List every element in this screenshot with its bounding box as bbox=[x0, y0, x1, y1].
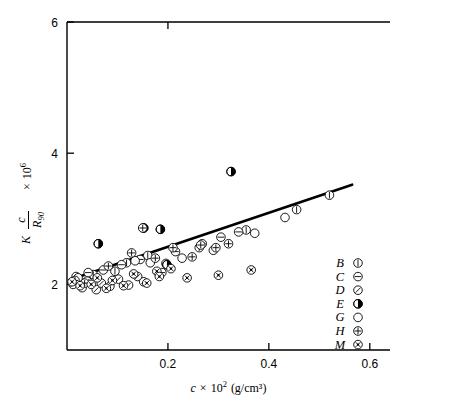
point-C-1 bbox=[84, 268, 93, 277]
point-M-11 bbox=[167, 264, 176, 273]
point-C-9 bbox=[234, 228, 243, 237]
x-axis-title-text: c×102(g/cm³) bbox=[191, 379, 267, 395]
chart-figure: 0.20.40.6 246 BCDEGHM c×102(g/cm³) KcR90… bbox=[0, 0, 460, 415]
point-G-5 bbox=[250, 229, 259, 238]
point-B-9 bbox=[325, 191, 334, 200]
point-E-0 bbox=[94, 239, 103, 248]
legend-label-B: B bbox=[336, 256, 344, 270]
scatter-plot-canvas: 0.20.40.6 246 BCDEGHM c×102(g/cm³) KcR90… bbox=[0, 0, 460, 415]
x-axis-tick-labels: 0.20.40.6 bbox=[160, 357, 379, 371]
legend-marker-E bbox=[354, 300, 363, 309]
point-H-2 bbox=[104, 262, 113, 271]
legend-marker-M bbox=[354, 340, 363, 349]
legend-label-G: G bbox=[335, 310, 344, 324]
point-B-8 bbox=[292, 205, 301, 214]
point-M-10 bbox=[155, 272, 164, 281]
legend: BCDEGHM bbox=[334, 256, 363, 352]
legend-label-M: M bbox=[334, 338, 346, 352]
y-axis-tick-labels: 246 bbox=[51, 16, 58, 292]
legend-label-D: D bbox=[334, 283, 344, 297]
point-M-0 bbox=[68, 277, 77, 286]
point-G-3 bbox=[178, 254, 187, 263]
point-H-3 bbox=[127, 249, 136, 258]
x-tick-label-1: 0.4 bbox=[261, 357, 278, 371]
point-C-3 bbox=[117, 260, 126, 269]
point-G-6 bbox=[281, 213, 290, 222]
y-axis-title-numerator: c bbox=[14, 217, 28, 223]
legend-label-E: E bbox=[335, 297, 344, 311]
point-H-4 bbox=[138, 224, 147, 233]
y-axis-title-denominator: R90 bbox=[30, 211, 46, 229]
point-H-6 bbox=[169, 243, 178, 252]
y-tick-label-0: 2 bbox=[51, 278, 58, 292]
y-tick-label-1: 4 bbox=[51, 147, 58, 161]
point-M-14 bbox=[247, 266, 256, 275]
point-M-13 bbox=[214, 271, 223, 280]
point-C-8 bbox=[217, 233, 226, 242]
legend-marker-C bbox=[354, 272, 363, 281]
y-axis-ticks bbox=[67, 22, 74, 284]
legend-marker-G bbox=[354, 313, 363, 322]
y-tick-label-2: 6 bbox=[51, 16, 58, 30]
point-H-10 bbox=[224, 239, 233, 248]
x-tick-label-2: 0.6 bbox=[361, 357, 378, 371]
legend-marker-H bbox=[354, 327, 363, 336]
y-axis-title-tail: ×106 bbox=[18, 163, 34, 190]
legend-marker-D bbox=[354, 286, 363, 295]
x-tick-label-0: 0.2 bbox=[160, 357, 177, 371]
point-M-4 bbox=[102, 284, 111, 293]
legend-marker-B bbox=[354, 259, 363, 268]
point-H-9 bbox=[212, 243, 221, 252]
data-points bbox=[68, 167, 334, 294]
point-M-8 bbox=[142, 279, 151, 288]
x-axis-title: c×102(g/cm³) bbox=[191, 379, 267, 395]
point-H-5 bbox=[151, 254, 160, 263]
legend-label-H: H bbox=[334, 324, 345, 338]
point-M-6 bbox=[119, 281, 128, 290]
point-M-1 bbox=[76, 281, 85, 290]
legend-label-C: C bbox=[336, 270, 345, 284]
point-H-7 bbox=[188, 253, 197, 262]
point-G-1 bbox=[131, 256, 140, 265]
y-axis-title-rotated: KcR90×106 bbox=[14, 163, 46, 245]
point-H-8 bbox=[196, 241, 205, 250]
point-M-3 bbox=[93, 274, 102, 283]
point-M-12 bbox=[183, 274, 192, 283]
point-M-5 bbox=[108, 276, 117, 285]
y-axis-title: KcR90×106 bbox=[14, 163, 46, 245]
point-M-7 bbox=[129, 270, 138, 279]
y-axis-title-text: K bbox=[19, 235, 33, 245]
point-E-3 bbox=[227, 167, 236, 176]
point-E-2 bbox=[156, 225, 165, 234]
